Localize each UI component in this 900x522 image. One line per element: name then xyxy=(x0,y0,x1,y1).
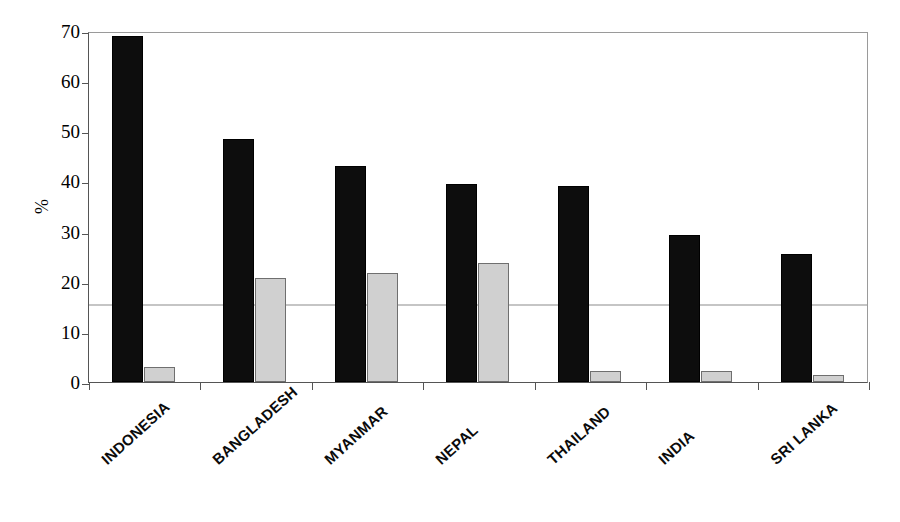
y-tick-label-30: 30 xyxy=(46,223,80,242)
x-category-label-sri-lanka: SRI LANKA xyxy=(767,399,840,467)
bar-bangladesh-series-1 xyxy=(223,139,254,382)
y-tick-label-20: 20 xyxy=(46,273,80,292)
bar-bangladesh-series-2 xyxy=(255,278,286,382)
bar-thailand-series-2 xyxy=(590,371,621,382)
bar-sri-lanka-series-1 xyxy=(781,254,812,382)
x-tick-mark-3 xyxy=(423,382,424,390)
bar-indonesia-series-1 xyxy=(112,36,143,382)
bar-chart: % 010203040506070 INDONESIABANGLADESHMYA… xyxy=(0,0,900,522)
y-tick-label-60: 60 xyxy=(46,72,80,91)
y-tick-mark-40 xyxy=(82,183,89,184)
bar-india-series-1 xyxy=(669,235,700,382)
y-tick-mark-60 xyxy=(82,83,89,84)
x-category-label-myanmar: MYANMAR xyxy=(321,403,391,468)
x-tick-mark-4 xyxy=(535,382,536,390)
bar-myanmar-series-2 xyxy=(367,273,398,382)
y-tick-label-50: 50 xyxy=(46,122,80,141)
bar-nepal-series-1 xyxy=(446,184,477,382)
bar-sri-lanka-series-2 xyxy=(813,375,844,382)
y-tick-label-70: 70 xyxy=(46,22,80,41)
x-tick-mark-0 xyxy=(89,382,90,390)
x-category-label-india: INDIA xyxy=(655,427,697,468)
bar-thailand-series-1 xyxy=(558,186,589,382)
x-tick-mark-end xyxy=(869,382,870,390)
y-tick-mark-10 xyxy=(82,334,89,335)
y-tick-mark-30 xyxy=(82,234,89,235)
y-tick-mark-70 xyxy=(82,33,89,34)
x-tick-mark-1 xyxy=(200,382,201,390)
bar-india-series-2 xyxy=(701,371,732,382)
x-tick-mark-6 xyxy=(758,382,759,390)
bar-indonesia-series-2 xyxy=(144,367,175,382)
y-tick-mark-20 xyxy=(82,284,89,285)
x-category-label-indonesia: INDONESIA xyxy=(98,398,173,468)
x-category-label-nepal: NEPAL xyxy=(432,421,481,468)
y-axis-tick-labels: 010203040506070 xyxy=(44,0,80,522)
y-tick-label-10: 10 xyxy=(46,323,80,342)
x-tick-mark-2 xyxy=(312,382,313,390)
y-tick-label-40: 40 xyxy=(46,172,80,191)
y-tick-mark-50 xyxy=(82,133,89,134)
plot-area xyxy=(88,32,868,383)
bar-myanmar-series-1 xyxy=(335,166,366,382)
y-tick-mark-0 xyxy=(82,384,89,385)
x-tick-mark-5 xyxy=(646,382,647,390)
x-category-label-bangladesh: BANGLADESH xyxy=(209,383,301,468)
y-tick-label-0: 0 xyxy=(46,373,80,392)
bar-nepal-series-2 xyxy=(478,263,509,382)
x-category-label-thailand: THAILAND xyxy=(544,403,614,468)
